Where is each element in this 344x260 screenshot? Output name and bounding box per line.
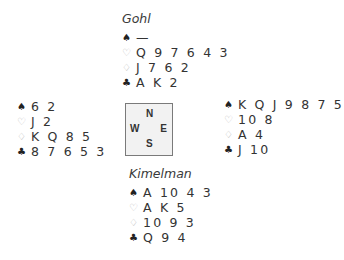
- east-clubs-row: ♣J 10: [224, 142, 344, 157]
- club-icon: ♣: [129, 230, 143, 245]
- east-clubs-cards: J 10: [238, 142, 270, 157]
- south-diamonds-cards: 10 9 3: [143, 215, 196, 230]
- south-spades-cards: A 10 4 3: [143, 185, 213, 200]
- spade-icon: ♠: [17, 99, 31, 114]
- south-player-name: Kimelman: [129, 165, 213, 183]
- heart-icon: ♡: [17, 114, 31, 129]
- compass-south-label: S: [146, 138, 153, 149]
- north-clubs-cards: A K 2: [136, 75, 180, 90]
- north-diamonds-row: ♢J 7 6 2: [122, 60, 230, 75]
- club-icon: ♣: [224, 142, 238, 157]
- south-hand: Kimelman ♠A 10 4 3 ♡A K 5 ♢10 9 3 ♣Q 9 4: [129, 165, 213, 245]
- compass-west-label: W: [130, 123, 139, 134]
- north-player-name: Gohl: [122, 10, 230, 28]
- north-spades-cards: —: [136, 30, 151, 45]
- diamond-icon: ♢: [129, 215, 143, 230]
- north-hearts-cards: Q 9 7 6 4 3: [136, 45, 230, 60]
- compass-north-label: N: [146, 108, 153, 119]
- east-spades-row: ♠K Q J 9 8 7 5: [224, 97, 344, 112]
- south-diamonds-row: ♢10 9 3: [129, 215, 213, 230]
- west-clubs-row: ♣8 7 6 5 3: [17, 144, 106, 159]
- west-spades-cards: 6 2: [31, 99, 57, 114]
- club-icon: ♣: [17, 144, 31, 159]
- compass-east-label: E: [160, 123, 167, 134]
- south-hearts-cards: A K 5: [143, 200, 187, 215]
- club-icon: ♣: [122, 75, 136, 90]
- diamond-icon: ♢: [17, 129, 31, 144]
- west-hearts-cards: J 2: [31, 114, 53, 129]
- south-hearts-row: ♡A K 5: [129, 200, 213, 215]
- west-hand: ♠6 2 ♡J 2 ♢K Q 8 5 ♣8 7 6 5 3: [17, 99, 106, 159]
- east-hearts-row: ♡10 8: [224, 112, 344, 127]
- east-diamonds-cards: A 4: [238, 127, 265, 142]
- south-spades-row: ♠A 10 4 3: [129, 185, 213, 200]
- north-hearts-row: ♡Q 9 7 6 4 3: [122, 45, 230, 60]
- south-clubs-row: ♣Q 9 4: [129, 230, 213, 245]
- north-hand: Gohl ♠— ♡Q 9 7 6 4 3 ♢J 7 6 2 ♣A K 2: [122, 10, 230, 90]
- east-hearts-cards: 10 8: [238, 112, 275, 127]
- spade-icon: ♠: [129, 185, 143, 200]
- heart-icon: ♡: [122, 45, 136, 60]
- west-diamonds-cards: K Q 8 5: [31, 129, 92, 144]
- spade-icon: ♠: [122, 30, 136, 45]
- east-hand: ♠K Q J 9 8 7 5 ♡10 8 ♢A 4 ♣J 10: [224, 97, 344, 157]
- diamond-icon: ♢: [224, 127, 238, 142]
- west-hearts-row: ♡J 2: [17, 114, 106, 129]
- east-spades-cards: K Q J 9 8 7 5: [238, 97, 344, 112]
- compass-box: N W E S: [125, 103, 173, 156]
- south-clubs-cards: Q 9 4: [143, 230, 188, 245]
- spade-icon: ♠: [224, 97, 238, 112]
- west-clubs-cards: 8 7 6 5 3: [31, 144, 106, 159]
- north-diamonds-cards: J 7 6 2: [136, 60, 191, 75]
- east-diamonds-row: ♢A 4: [224, 127, 344, 142]
- west-spades-row: ♠6 2: [17, 99, 106, 114]
- heart-icon: ♡: [129, 200, 143, 215]
- heart-icon: ♡: [224, 112, 238, 127]
- north-clubs-row: ♣A K 2: [122, 75, 230, 90]
- north-spades-row: ♠—: [122, 30, 230, 45]
- west-diamonds-row: ♢K Q 8 5: [17, 129, 106, 144]
- diamond-icon: ♢: [122, 60, 136, 75]
